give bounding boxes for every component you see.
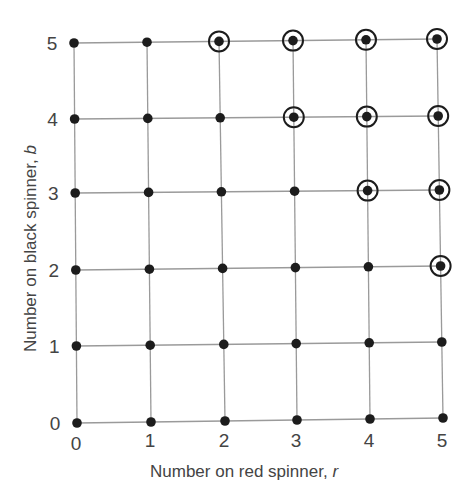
point-dot-icon [72, 341, 82, 351]
point-dot-icon [437, 337, 447, 347]
x-tick-label: 1 [145, 430, 156, 451]
point-dot-icon [146, 417, 156, 427]
sample-point [290, 186, 300, 196]
point-dot-icon [71, 265, 81, 275]
point-dot-icon [291, 339, 301, 349]
sample-point [292, 415, 302, 425]
point-dot-icon [145, 340, 155, 350]
point-dot-icon [364, 338, 374, 348]
sample-point [215, 113, 225, 123]
point-dot-icon [215, 113, 225, 123]
sample-point [71, 265, 81, 275]
grid-column-line [147, 42, 151, 422]
grid-column-line [293, 41, 297, 420]
sample-point [291, 339, 301, 349]
sample-point [146, 417, 156, 427]
point-dot-icon [214, 37, 224, 47]
point-dot-icon [290, 186, 300, 196]
sample-point [220, 416, 230, 426]
sample-point [365, 414, 375, 424]
point-dot-icon [362, 112, 372, 122]
sample-point [145, 264, 155, 274]
point-dot-icon [70, 114, 80, 124]
sample-point [218, 264, 228, 274]
grid-column-line [366, 40, 370, 419]
x-tick-label: 2 [219, 430, 230, 451]
point-dot-icon [291, 263, 301, 273]
x-tick-label: 0 [71, 433, 82, 454]
sample-point [219, 340, 229, 350]
y-axis-label-text: Number on black spinner, [21, 155, 40, 353]
y-axis-ticks: 012345 [47, 33, 61, 434]
y-tick-label: 2 [49, 260, 60, 281]
sample-point [70, 114, 80, 124]
grid-row-line [75, 116, 439, 119]
sample-point [438, 413, 448, 423]
point-dot-icon [438, 413, 448, 423]
x-axis-variable: r [332, 462, 339, 481]
sample-point [143, 114, 153, 124]
sample-space-diagram: 012345 012345 Number on red spinner, r N… [0, 0, 468, 499]
sample-point [144, 188, 154, 198]
point-dot-icon [70, 188, 80, 198]
x-axis-ticks: 012345 [71, 430, 448, 454]
grid-row-line [75, 190, 439, 193]
point-dot-icon [144, 188, 154, 198]
point-dot-icon [69, 38, 79, 48]
point-dot-icon [217, 187, 227, 197]
x-axis-label: Number on red spinner, r [150, 462, 339, 481]
sample-point [364, 338, 374, 348]
point-dot-icon [436, 261, 446, 271]
sample-point [142, 37, 152, 47]
point-dot-icon [220, 416, 230, 426]
y-axis-variable: b [21, 145, 40, 154]
grid-row-line [76, 266, 441, 270]
point-dot-icon [219, 340, 229, 350]
point-dot-icon [435, 185, 445, 195]
sample-point [291, 263, 301, 273]
point-dot-icon [364, 262, 374, 272]
point-dot-icon [292, 415, 302, 425]
grid-row-line [74, 39, 437, 43]
x-axis-label-text: Number on red spinner, [150, 462, 332, 481]
grid-lines [74, 39, 443, 423]
point-dot-icon [218, 264, 228, 274]
point-dot-icon [365, 414, 375, 424]
point-dot-icon [72, 418, 82, 428]
y-tick-label: 3 [48, 183, 59, 204]
point-dot-icon [433, 111, 443, 121]
y-tick-label: 5 [47, 33, 58, 54]
sample-point [217, 187, 227, 197]
grid-column-line [74, 43, 77, 423]
x-tick-label: 3 [291, 430, 302, 451]
y-tick-label: 4 [47, 109, 58, 130]
grid-row-line [77, 418, 443, 423]
sample-point [72, 418, 82, 428]
x-tick-label: 5 [437, 430, 448, 451]
grid-row-line [76, 342, 441, 346]
point-dot-icon [288, 36, 298, 46]
sample-point [70, 188, 80, 198]
point-dot-icon [361, 35, 371, 45]
point-dot-icon [363, 186, 373, 196]
y-axis-label: Number on black spinner, b [21, 145, 40, 352]
sample-point [72, 341, 82, 351]
sample-point [69, 38, 79, 48]
point-dot-icon [143, 114, 153, 124]
sample-point [364, 262, 374, 272]
point-dot-icon [145, 264, 155, 274]
point-dot-icon [289, 112, 299, 122]
grid-column-line [437, 39, 443, 418]
point-dot-icon [142, 37, 152, 47]
sample-point [437, 337, 447, 347]
x-tick-label: 4 [364, 430, 375, 451]
y-tick-label: 0 [50, 413, 61, 434]
grid-column-line [219, 41, 225, 421]
sample-points [69, 29, 450, 428]
sample-point [145, 340, 155, 350]
y-tick-label: 1 [49, 336, 60, 357]
point-dot-icon [432, 34, 442, 44]
